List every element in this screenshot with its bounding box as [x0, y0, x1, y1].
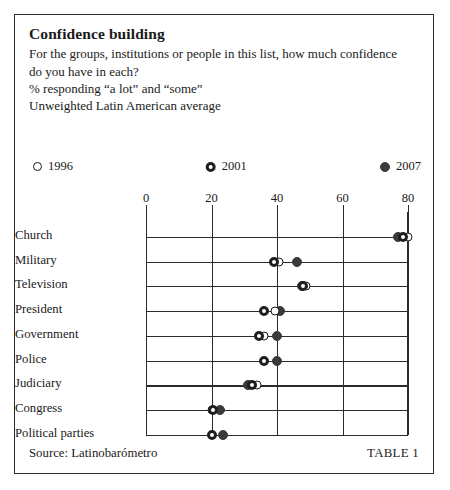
question-line-1: For the groups, institutions or people i…	[29, 45, 421, 62]
row-rule	[146, 237, 408, 238]
category-label-president: President	[15, 302, 135, 317]
data-point-2001	[298, 281, 308, 291]
filled-circle-icon	[380, 162, 390, 172]
legend-item-1996: 1996	[33, 159, 73, 174]
category-label-congress: Congress	[15, 401, 135, 416]
row-rule	[146, 286, 408, 287]
x-tick-80	[408, 205, 409, 212]
source-note: Source: Latinobarómetro	[29, 446, 157, 461]
data-point-2007	[272, 356, 282, 366]
data-point-2007	[272, 331, 282, 341]
row-rule	[146, 385, 408, 386]
measure-note: % responding “a lot” and “some”	[29, 80, 421, 97]
data-point-2001	[254, 331, 264, 341]
data-point-2001	[398, 232, 408, 242]
category-label-government: Government	[15, 327, 135, 342]
gridline-80	[408, 212, 409, 435]
figure-header: Confidence building For the groups, inst…	[29, 24, 421, 114]
data-point-2001	[208, 405, 218, 415]
hollow-circle-icon	[33, 162, 42, 171]
data-rows: ChurchMilitaryTelevisionPresidentGovernm…	[146, 212, 408, 435]
basis-note: Unweighted Latin American average	[29, 97, 421, 114]
x-tick-0	[146, 205, 147, 212]
legend-item-2007: 2007	[380, 159, 421, 174]
x-tick-60	[343, 205, 344, 212]
x-axis-tick-labels: 020406080	[15, 191, 435, 207]
x-tick-label-0: 0	[143, 191, 149, 206]
category-label-judiciary: Judiciary	[15, 376, 135, 391]
category-label-political-parties: Political parties	[15, 426, 135, 441]
x-tick-label-40: 40	[271, 191, 284, 206]
x-tick-label-80: 80	[402, 191, 415, 206]
x-tick-label-20: 20	[205, 191, 218, 206]
row-rule	[146, 410, 408, 411]
data-point-1996	[271, 307, 280, 316]
category-label-military: Military	[15, 253, 135, 268]
donut-circle-icon	[206, 162, 216, 172]
x-tick-20	[212, 205, 213, 212]
legend-label-2001: 2001	[222, 159, 247, 174]
data-point-2001	[247, 380, 257, 390]
row-rule	[146, 435, 408, 436]
table-number: TABLE 1	[367, 446, 419, 461]
data-point-2001	[259, 356, 269, 366]
legend-item-2001: 2001	[206, 159, 247, 174]
data-point-2007	[292, 257, 302, 267]
x-tick-label-60: 60	[336, 191, 349, 206]
category-label-police: Police	[15, 352, 135, 367]
legend-label-2007: 2007	[396, 159, 421, 174]
category-label-church: Church	[15, 228, 135, 243]
legend-label-1996: 1996	[48, 159, 73, 174]
chart-legend: 1996 2001 2007	[33, 159, 421, 179]
data-point-2001	[259, 306, 269, 316]
figure-panel: Confidence building For the groups, inst…	[14, 14, 434, 474]
figure-footer: Source: Latinobarómetro TABLE 1	[29, 446, 419, 461]
data-point-2001	[269, 257, 279, 267]
x-tick-40	[277, 205, 278, 212]
question-line-2: do you have in each?	[29, 63, 421, 80]
data-point-2001	[207, 430, 217, 440]
data-point-2007	[218, 430, 228, 440]
plot-area: ChurchMilitaryTelevisionPresidentGovernm…	[146, 212, 408, 435]
page-title: Confidence building	[29, 24, 421, 43]
category-label-television: Television	[15, 277, 135, 292]
